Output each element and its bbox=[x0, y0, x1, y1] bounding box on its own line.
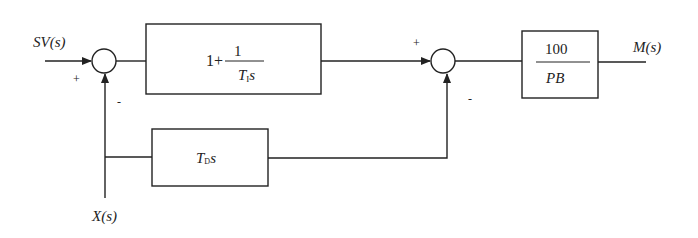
summing-junction-1 bbox=[92, 49, 116, 73]
integral-numerator: 1 bbox=[234, 43, 242, 59]
integral-denominator: TIs bbox=[238, 67, 255, 84]
block-diagram: SV(s) + - + - 1+ 1 TIs TDs 100 PB M(s) X… bbox=[0, 0, 698, 238]
output-label: M(s) bbox=[632, 39, 661, 56]
derivative-label: TDs bbox=[196, 150, 216, 166]
gain-denominator: PB bbox=[545, 70, 564, 86]
integral-block bbox=[146, 24, 321, 94]
summing-junction-2 bbox=[431, 49, 455, 73]
sum1-minus-sign: - bbox=[117, 95, 121, 109]
measurement-label: X(s) bbox=[91, 208, 117, 225]
setpoint-label: SV(s) bbox=[33, 34, 66, 51]
sum1-plus-sign: + bbox=[73, 72, 80, 86]
sum2-plus-sign: + bbox=[413, 36, 420, 50]
sum2-minus-sign: - bbox=[468, 92, 472, 106]
integral-prefix: 1+ bbox=[206, 52, 223, 69]
gain-numerator: 100 bbox=[545, 41, 568, 57]
